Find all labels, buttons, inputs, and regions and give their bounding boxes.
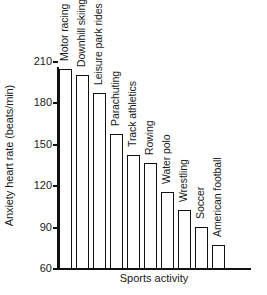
bar-item[interactable]: Leisure park rides	[93, 61, 106, 268]
y-tick-label: 60	[40, 262, 52, 274]
bar-rect[interactable]	[93, 93, 106, 268]
bar-category-label: Leisure park rides	[92, 3, 104, 85]
bar-category-label: Soccer	[194, 187, 206, 219]
bar-item[interactable]: Track athletics	[127, 61, 140, 268]
y-axis-label-text: Anxiety heart rate (beats/min)	[3, 85, 15, 226]
bar-item[interactable]: Wrestling	[178, 61, 191, 268]
bar-rect[interactable]	[127, 155, 140, 268]
bar-category-label: Motor racing	[58, 4, 70, 61]
bar-chart: Anxiety heart rate (beats/min) 609012015…	[0, 0, 267, 295]
bar-category-label: Track athletics	[126, 81, 138, 147]
y-tick-mark	[53, 144, 58, 146]
x-axis-line	[57, 268, 251, 270]
bar-item[interactable]: Rowing	[144, 61, 157, 268]
bar-series: Motor racingDownhill skiingLeisure park …	[59, 61, 225, 268]
bar-item[interactable]: Motor racing	[59, 61, 72, 268]
bar-category-label: Wrestling	[177, 159, 189, 202]
bar-category-label: Parachuting	[109, 71, 121, 126]
bar-rect[interactable]	[144, 163, 157, 268]
bar-item[interactable]: Soccer	[195, 61, 208, 268]
bar-item[interactable]: Water polo	[161, 61, 174, 268]
bar-item[interactable]: American football	[212, 61, 225, 268]
bar-rect[interactable]	[59, 69, 72, 268]
bar-category-label: Rowing	[143, 121, 155, 155]
y-tick-label: 150	[34, 138, 52, 150]
y-tick-mark	[53, 185, 58, 187]
bar-rect[interactable]	[212, 245, 225, 268]
y-tick-mark	[53, 268, 58, 270]
y-tick-label: 210	[34, 55, 52, 67]
plot-area: 6090120150180210 Motor racingDownhill sk…	[57, 62, 251, 270]
bar-category-label: Water polo	[160, 135, 172, 184]
y-tick-mark	[53, 102, 58, 104]
x-axis-label: Sports activity	[57, 272, 251, 284]
y-axis-label: Anxiety heart rate (beats/min)	[0, 0, 18, 295]
bar-item[interactable]: Downhill skiing	[76, 61, 89, 268]
y-tick-mark	[53, 227, 58, 229]
bar-category-label: Downhill skiing	[75, 0, 87, 67]
y-tick-label: 120	[34, 179, 52, 191]
bar-rect[interactable]	[178, 210, 191, 268]
bar-item[interactable]: Parachuting	[110, 61, 123, 268]
y-tick-label: 180	[34, 96, 52, 108]
bar-rect[interactable]	[161, 192, 174, 268]
bar-rect[interactable]	[76, 75, 89, 268]
bar-rect[interactable]	[195, 227, 208, 268]
y-tick-mark	[53, 61, 58, 63]
bar-rect[interactable]	[110, 134, 123, 268]
y-tick-label: 90	[40, 221, 52, 233]
bar-category-label: American football	[211, 157, 223, 236]
